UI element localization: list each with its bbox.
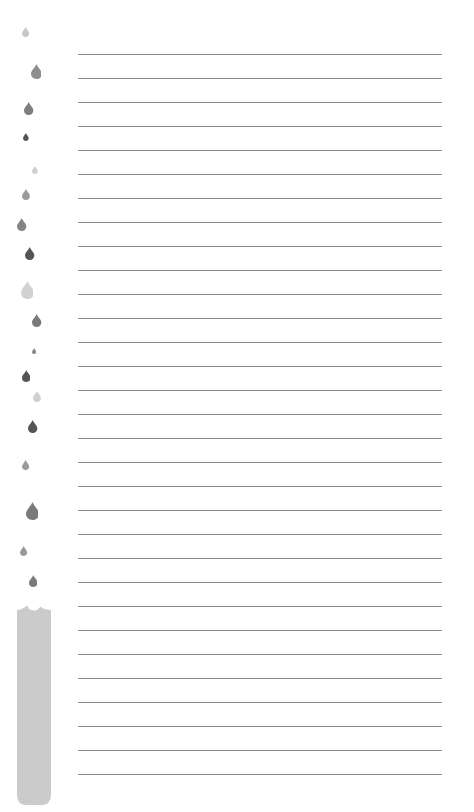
- ruled-line: [78, 702, 442, 703]
- water-drop-icon: [29, 575, 38, 587]
- water-drop-icon: [32, 166, 38, 174]
- water-drop-icon: [22, 189, 30, 200]
- ruled-line: [78, 78, 442, 79]
- ruled-line: [78, 774, 442, 775]
- ruled-line: [78, 174, 442, 175]
- ruled-line: [78, 462, 442, 463]
- ruled-line: [78, 102, 442, 103]
- ruled-line: [78, 414, 442, 415]
- water-drop-icon: [26, 502, 39, 520]
- ruled-line: [78, 726, 442, 727]
- ruled-lines: [0, 0, 474, 812]
- water-drop-icon: [22, 460, 29, 470]
- water-drop-icon: [20, 546, 27, 556]
- ruled-line: [78, 366, 442, 367]
- water-drop-icon: [33, 391, 41, 402]
- ruled-line: [78, 582, 442, 583]
- ruled-line: [78, 270, 442, 271]
- ruled-line: [78, 558, 442, 559]
- water-level-bar-shape: [17, 604, 51, 805]
- ruled-line: [78, 294, 442, 295]
- ruled-line: [78, 654, 442, 655]
- water-drop-icon: [32, 314, 41, 327]
- ruled-line: [78, 246, 442, 247]
- ruled-line: [78, 222, 442, 223]
- ruled-line: [78, 390, 442, 391]
- water-level-bar: [17, 604, 51, 805]
- ruled-line: [78, 318, 442, 319]
- water-drop-icon: [32, 348, 36, 354]
- ruled-line: [78, 534, 442, 535]
- ruled-line: [78, 198, 442, 199]
- ruled-line: [78, 438, 442, 439]
- ruled-line: [78, 510, 442, 511]
- ruled-line: [78, 54, 442, 55]
- water-drop-icon: [17, 218, 26, 231]
- ruled-line: [78, 630, 442, 631]
- ruled-line: [78, 342, 442, 343]
- notepaper-page: [0, 0, 474, 812]
- water-drop-icon: [24, 102, 33, 115]
- water-drop-icon: [23, 133, 29, 141]
- water-drop-icon: [25, 247, 34, 260]
- water-drop-icon: [21, 281, 34, 299]
- water-drop-icon: [22, 370, 31, 382]
- water-drop-icon: [22, 27, 29, 37]
- ruled-line: [78, 606, 442, 607]
- ruled-line: [78, 750, 442, 751]
- water-drop-icon: [28, 420, 37, 433]
- ruled-line: [78, 150, 442, 151]
- ruled-line: [78, 126, 442, 127]
- ruled-line: [78, 486, 442, 487]
- ruled-line: [78, 678, 442, 679]
- water-drop-icon: [31, 64, 42, 79]
